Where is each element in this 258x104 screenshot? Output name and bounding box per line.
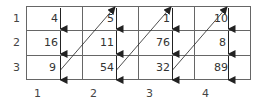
- cell-r2-c1: 16: [28, 36, 58, 49]
- cell-r1-c4: 10: [198, 12, 228, 25]
- col-label-3: 3: [146, 87, 153, 100]
- cell-r1-c1: 4: [28, 12, 58, 25]
- row-label-2: 2: [13, 36, 20, 49]
- cell-r2-c3: 76: [140, 36, 170, 49]
- cell-r3-c2: 54: [84, 61, 114, 74]
- row-label-3: 3: [13, 61, 20, 74]
- cell-r1-c3: 1: [140, 12, 170, 25]
- cell-r2-c2: 11: [84, 36, 114, 49]
- cell-r3-c3: 32: [140, 61, 170, 74]
- cell-r3-c4: 89: [198, 61, 228, 74]
- col-label-1: 1: [34, 87, 41, 100]
- col-label-2: 2: [90, 87, 97, 100]
- cell-r1-c2: 5: [84, 12, 114, 25]
- cell-r3-c1: 9: [26, 61, 56, 74]
- col-label-4: 4: [202, 87, 209, 100]
- row-label-1: 1: [13, 12, 20, 25]
- cell-r2-c4: 8: [196, 36, 226, 49]
